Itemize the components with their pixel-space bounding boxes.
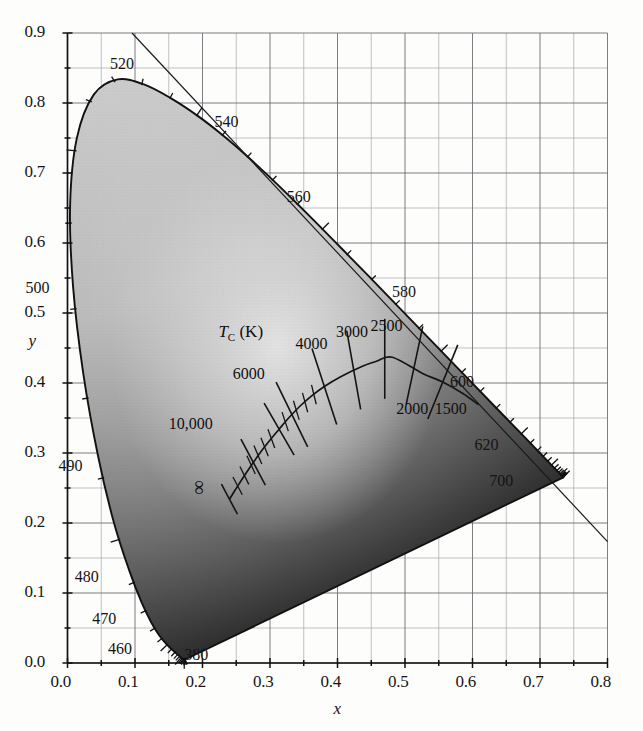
wavelength-label-470: 470 <box>92 610 116 628</box>
y-tick-label-0.8: 0.8 <box>25 92 46 112</box>
y-tick-label-0.3: 0.3 <box>25 442 46 462</box>
wavelength-label-480: 480 <box>75 568 99 586</box>
x-tick-label-0.3: 0.3 <box>253 672 274 692</box>
y-tick-label-0.2: 0.2 <box>25 512 46 532</box>
y-tick-label-0.5: 0.5 <box>25 302 46 322</box>
y-tick-label-0.0: 0.0 <box>25 652 46 672</box>
y-axis-title: y <box>29 331 37 351</box>
infinity-symbol: ∞ <box>187 481 210 495</box>
x-tick-label-0.4: 0.4 <box>321 672 342 692</box>
wavelength-label-600: 600 <box>450 373 474 391</box>
x-tick-label-0.0: 0.0 <box>51 672 72 692</box>
wavelength-label-460: 460 <box>108 640 132 658</box>
temperature-label-3000: 3000 <box>336 323 368 341</box>
y-tick-label-0.4: 0.4 <box>25 372 46 392</box>
y-tick-label-0.1: 0.1 <box>25 582 46 602</box>
y-tick-label-0.7: 0.7 <box>25 162 46 182</box>
gamut-region <box>70 79 563 660</box>
x-tick-label-0.8: 0.8 <box>591 672 612 692</box>
y-tick-label-0.9: 0.9 <box>25 22 46 42</box>
temperature-label-6000: 6000 <box>233 365 265 383</box>
wavelength-label-500: 500 <box>26 279 50 297</box>
x-tick-label-0.2: 0.2 <box>186 672 207 692</box>
temperature-label-1500: 1500 <box>435 400 467 418</box>
y-tick-label-0.6: 0.6 <box>25 232 46 252</box>
temperature-label-2000: 2000 <box>396 400 428 418</box>
wavelength-label-580: 580 <box>392 283 416 301</box>
wavelength-label-520: 520 <box>110 55 134 73</box>
wavelength-label-490: 490 <box>59 457 83 475</box>
x-tick-label-0.7: 0.7 <box>523 672 544 692</box>
temperature-label-4000: 4000 <box>296 335 328 353</box>
x-tick-label-0.1: 0.1 <box>118 672 139 692</box>
x-axis-title: x <box>334 699 342 719</box>
x-tick-label-0.5: 0.5 <box>388 672 409 692</box>
wavelength-label-620: 620 <box>474 436 498 454</box>
wavelength-label-380: 380 <box>184 646 208 664</box>
temperature-locus-title: TC (K) <box>218 322 263 343</box>
cie-chromaticity-figure: 0.00.10.20.30.40.50.60.70.80.00.10.20.30… <box>0 0 643 731</box>
wavelength-label-700: 700 <box>489 472 513 490</box>
wavelength-label-560: 560 <box>287 188 311 206</box>
temperature-label-2500: 2500 <box>371 317 403 335</box>
x-tick-label-0.6: 0.6 <box>456 672 477 692</box>
temperature-label-10000: 10,000 <box>169 415 213 433</box>
wavelength-label-540: 540 <box>215 113 239 131</box>
